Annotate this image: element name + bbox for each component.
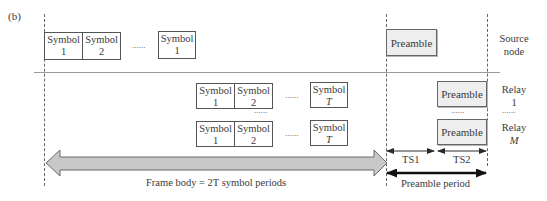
- frame-body-label: Frame body = 2T symbol periods: [146, 177, 286, 189]
- ts1-label: TS1: [402, 154, 420, 166]
- ts2-label: TS2: [453, 154, 471, 166]
- frame-body-double-arrow: [46, 150, 387, 176]
- arrows-layer: [0, 0, 547, 201]
- preamble-period-label: Preamble period: [401, 178, 470, 190]
